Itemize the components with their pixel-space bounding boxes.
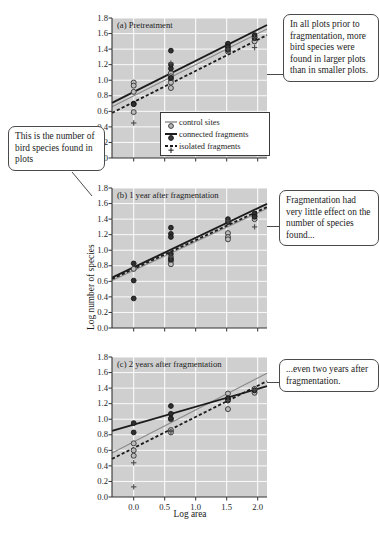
y-tick-label: 1.2 (84, 60, 108, 69)
plot-panel-b: (b) 1 year after fragmentation (112, 188, 267, 328)
y-tick-label: 1.4 (84, 215, 108, 224)
y-tick-label: 1.8 (84, 184, 108, 193)
legend-item-connected: connected fragments (164, 128, 265, 140)
callout-left: This is the number of bird species found… (8, 126, 105, 171)
y-tick-label: 0.8 (84, 430, 108, 439)
y-tick-label: 1.2 (84, 399, 108, 408)
panel-title-c: (c) 2 years after fragmentation (117, 359, 222, 369)
y-tick-label: 0.4 (84, 462, 108, 471)
plot-panel-c: (c) 2 years after fragmentation (112, 357, 267, 497)
y-tick-label: 1.6 (84, 368, 108, 377)
y-tick-label: 0.2 (84, 308, 108, 317)
legend-label-isolated: isolated fragments (179, 141, 241, 152)
y-tick-label: 1.0 (84, 246, 108, 255)
y-tick-label: 0.0 (84, 493, 108, 502)
y-tick-label: 0.8 (84, 261, 108, 270)
y-tick-label: 0.6 (84, 277, 108, 286)
legend-label-control: control sites (179, 117, 220, 128)
y-tick-label: 0.6 (84, 107, 108, 116)
y-tick-label: 0.6 (84, 446, 108, 455)
leader-line-top-right (267, 74, 284, 75)
legend-symbol-filled-circle-icon (164, 128, 179, 140)
y-tick-label: 1.0 (84, 76, 108, 85)
panel-title-b: (b) 1 year after fragmentation (117, 190, 219, 200)
y-axis-label: Log number of species (86, 244, 96, 330)
y-tick-label: 1.8 (84, 14, 108, 23)
y-tick-label: 1.4 (84, 45, 108, 54)
y-tick-label: 1.2 (84, 230, 108, 239)
y-tick-label: 1.8 (84, 353, 108, 362)
cropped-caption-text (84, 530, 377, 541)
y-tick-label: 0.2 (84, 477, 108, 486)
panel-title-a: (a) Pretreatment (117, 20, 173, 30)
x-tick-label: 0.0 (122, 503, 146, 512)
legend-item-control: control sites (164, 116, 265, 128)
plot-canvas (112, 188, 267, 328)
callout-bottom-right: ...even two years after fragmentation. (279, 359, 379, 392)
y-tick-label: 0.4 (84, 293, 108, 302)
y-tick-label: 0.0 (84, 324, 108, 333)
y-tick-label: 1.6 (84, 199, 108, 208)
callout-middle-right: Fragmentation had very little effect on … (279, 190, 379, 246)
x-tick-label: 1.5 (215, 503, 239, 512)
plot-canvas (112, 357, 267, 497)
legend: control sites connected fragments isolat… (160, 112, 270, 156)
y-tick-label: 1.0 (84, 415, 108, 424)
legend-label-connected: connected fragments (179, 129, 249, 140)
x-tick-label: 1.0 (184, 503, 208, 512)
legend-symbol-plus-dashed-icon (164, 140, 179, 152)
callout-top-right: In all plots prior to fragmentation, mor… (283, 14, 379, 82)
y-tick-label: 0.8 (84, 91, 108, 100)
x-tick-label: 2.0 (246, 503, 270, 512)
legend-symbol-open-circle-icon (164, 116, 179, 128)
y-tick-label: 1.6 (84, 29, 108, 38)
y-tick-label: 1.4 (84, 384, 108, 393)
cropped-top-text (92, 0, 377, 2)
x-tick-label: 0.5 (153, 503, 177, 512)
legend-item-isolated: isolated fragments (164, 140, 265, 152)
